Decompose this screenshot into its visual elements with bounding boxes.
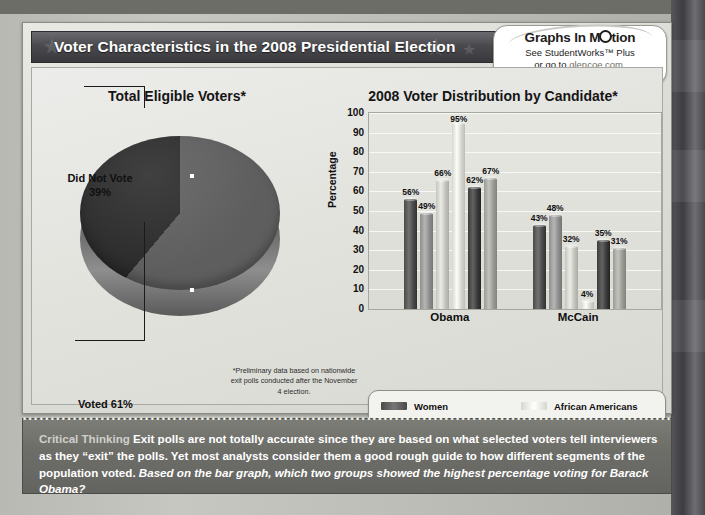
y-tick-label: 80 xyxy=(353,146,364,157)
bar xyxy=(484,178,497,309)
legend-label: Women xyxy=(414,401,448,412)
y-tick-label: 30 xyxy=(353,244,364,255)
bar xyxy=(613,248,626,309)
bar-value-label: 35% xyxy=(595,228,612,238)
gridline xyxy=(369,152,661,153)
legend-swatch xyxy=(521,402,547,410)
bar-value-label: 95% xyxy=(450,114,467,124)
figure-body: Total Eligible Voters* 2008 Voter Distri… xyxy=(31,67,663,405)
x-axis-group-label: McCain xyxy=(558,311,599,323)
pie-top-surface xyxy=(80,136,280,290)
bar-value-label: 62% xyxy=(466,175,483,185)
gridline xyxy=(369,172,661,173)
bar-cap xyxy=(436,178,449,182)
bar xyxy=(533,225,546,309)
leader-line xyxy=(144,222,145,341)
bar xyxy=(420,213,433,309)
bar-chart-title: 2008 Voter Distribution by Candidate* xyxy=(318,88,668,104)
legend-item: Women xyxy=(381,398,498,414)
bar-plot-area: 56%49%66%95%62%67%43%48%32%4%35%31% xyxy=(368,112,662,310)
bar-cap xyxy=(404,197,417,201)
y-tick-label: 10 xyxy=(353,283,364,294)
leader-line xyxy=(84,86,145,87)
bar-cap xyxy=(565,244,578,248)
pie-chart-title: Total Eligible Voters* xyxy=(32,88,322,104)
y-axis-ticks: 0102030405060708090100 xyxy=(340,112,364,308)
bar-chart: Percentage 0102030405060708090100 56%49%… xyxy=(332,112,662,362)
pie-label-did-not-vote-text: Did Not Vote xyxy=(67,172,132,184)
critical-thinking-label: Critical Thinking xyxy=(39,432,130,445)
bar-value-label: 56% xyxy=(402,187,419,197)
badge-line-2: See StudentWorks™ Plus xyxy=(494,47,666,58)
y-axis-label: Percentage xyxy=(326,151,338,208)
y-tick-label: 0 xyxy=(358,303,364,314)
bar-value-label: 32% xyxy=(563,234,580,244)
pie-label-did-not-vote-value: 39% xyxy=(89,186,111,198)
badge-title: Graphs In Mtion xyxy=(494,30,666,45)
bar-cap xyxy=(468,185,481,189)
bar-cap xyxy=(597,238,610,242)
bar-value-label: 48% xyxy=(547,203,564,213)
bar-value-label: 67% xyxy=(482,166,499,176)
pie-label-did-not-vote: Did Not Vote 39% xyxy=(57,172,143,200)
pie-footnote: *Preliminary data based on nationwide ex… xyxy=(228,366,360,397)
bar-cap xyxy=(420,211,433,215)
bar xyxy=(404,199,417,309)
bar-value-label: 49% xyxy=(418,201,435,211)
figure-title-bar: ★ ★ ★ Voter Characteristics in the 2008 … xyxy=(31,31,503,63)
y-tick-label: 40 xyxy=(353,224,364,235)
legend-swatch xyxy=(381,402,407,410)
bar xyxy=(452,123,465,309)
pie-callout-dot xyxy=(190,174,194,178)
bar xyxy=(468,187,481,309)
y-tick-label: 70 xyxy=(353,165,364,176)
bar xyxy=(549,215,562,309)
badge-title-pre: Graphs In M xyxy=(525,30,601,45)
y-tick-label: 60 xyxy=(353,185,364,196)
bar-cap xyxy=(581,299,594,303)
bar-value-label: 31% xyxy=(611,236,628,246)
pie-callout-dot xyxy=(190,288,194,292)
bar-cap xyxy=(549,213,562,217)
page-edge-strip xyxy=(671,0,705,515)
bar-cap xyxy=(533,223,546,227)
figure-card: ★ ★ ★ Voter Characteristics in the 2008 … xyxy=(22,22,672,414)
bar-cap xyxy=(484,176,497,180)
bar-cap xyxy=(613,246,626,250)
critical-thinking-text: Critical Thinking Exit polls are not tot… xyxy=(39,431,659,498)
x-axis-group-label: Obama xyxy=(430,311,469,323)
y-tick-label: 100 xyxy=(347,107,364,118)
y-tick-label: 90 xyxy=(353,126,364,137)
pie-chart xyxy=(80,136,280,336)
gridline xyxy=(369,113,661,114)
page-title: Voter Characteristics in the 2008 Presid… xyxy=(32,38,455,56)
gridline xyxy=(369,133,661,134)
y-tick-label: 50 xyxy=(353,205,364,216)
leader-line xyxy=(75,340,145,341)
bar-value-label: 66% xyxy=(434,168,451,178)
bar-value-label: 43% xyxy=(531,213,548,223)
star-icon: ★ xyxy=(462,42,476,58)
bar xyxy=(597,240,610,309)
y-tick-label: 20 xyxy=(353,263,364,274)
dotted-rule: ••••••••••••••••••••••••••••••••••••••••… xyxy=(23,414,671,424)
critical-thinking-box: ••••••••••••••••••••••••••••••••••••••••… xyxy=(22,418,672,494)
leader-line xyxy=(144,86,145,108)
bar xyxy=(436,180,449,309)
pie-label-voted: Voted 61% xyxy=(78,398,133,412)
bar xyxy=(565,246,578,309)
legend-label: African Americans xyxy=(554,401,638,412)
legend-item: African Americans xyxy=(521,398,638,414)
badge-title-post: tion xyxy=(611,30,635,45)
bar-value-label: 4% xyxy=(581,289,593,299)
bar xyxy=(581,301,594,309)
